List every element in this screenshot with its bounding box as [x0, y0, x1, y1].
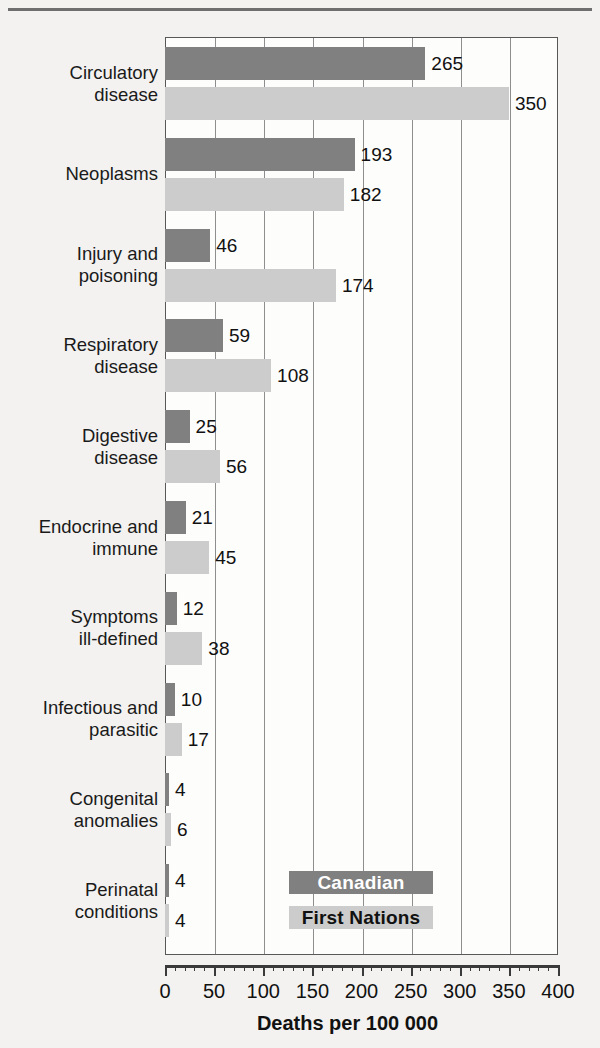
bar-value-label-firstnations-6: 38 [208, 632, 229, 665]
bar-chart-figure: 2653501931824617459108255621451238101746… [0, 0, 600, 1048]
category-label-5: Endocrine and immune [3, 516, 158, 560]
category-label-6: Symptoms ill-defined [3, 606, 158, 650]
x-tick-minor-170 [332, 965, 333, 971]
x-tick-label-300: 300 [443, 980, 476, 1003]
legend-item-canadian[interactable]: Canadian [289, 871, 433, 894]
bar-firstnations-7 [165, 723, 182, 756]
x-tick-minor-70 [234, 965, 235, 971]
x-tick-minor-60 [224, 965, 225, 971]
x-tick-minor-30 [194, 965, 195, 971]
bar-firstnations-3 [165, 359, 271, 392]
bar-value-label-canadian-5: 21 [192, 501, 213, 534]
x-tick-major-100 [263, 965, 265, 976]
category-label-2: Injury and poisoning [3, 243, 158, 287]
x-tick-minor-180 [342, 965, 343, 971]
bar-canadian-4 [165, 410, 190, 443]
x-tick-minor-230 [391, 965, 392, 971]
x-tick-minor-340 [499, 965, 500, 971]
bar-firstnations-2 [165, 269, 336, 302]
bar-value-label-canadian-3: 59 [229, 319, 250, 352]
x-tick-minor-220 [381, 965, 382, 971]
x-tick-label-250: 250 [394, 980, 427, 1003]
bar-canadian-8 [165, 773, 169, 806]
category-label-9: Perinatal conditions [3, 879, 158, 923]
x-tick-label-0: 0 [159, 980, 170, 1003]
top-divider-rule [8, 8, 592, 11]
x-tick-minor-190 [352, 965, 353, 971]
bar-value-label-canadian-0: 265 [431, 47, 463, 80]
bar-firstnations-6 [165, 632, 202, 665]
x-tick-minor-320 [479, 965, 480, 971]
x-tick-major-50 [214, 965, 216, 976]
x-tick-major-300 [460, 965, 462, 976]
x-tick-minor-270 [430, 965, 431, 971]
bar-canadian-3 [165, 319, 223, 352]
x-tick-minor-290 [450, 965, 451, 971]
bar-value-label-firstnations-1: 182 [350, 178, 382, 211]
legend-item-first-nations[interactable]: First Nations [289, 906, 433, 929]
x-tick-minor-370 [529, 965, 530, 971]
x-tick-label-350: 350 [492, 980, 525, 1003]
bar-value-label-firstnations-2: 174 [342, 269, 374, 302]
bar-firstnations-5 [165, 541, 209, 574]
x-tick-major-200 [362, 965, 364, 976]
bar-value-label-canadian-6: 12 [183, 592, 204, 625]
x-tick-minor-360 [519, 965, 520, 971]
bar-value-label-canadian-7: 10 [181, 683, 202, 716]
bar-value-label-firstnations-0: 350 [515, 87, 547, 120]
bar-value-label-firstnations-8: 6 [177, 813, 188, 846]
x-tick-label-200: 200 [345, 980, 378, 1003]
x-tick-minor-90 [253, 965, 254, 971]
x-axis-title: Deaths per 100 000 [0, 1012, 600, 1035]
x-tick-minor-310 [470, 965, 471, 971]
x-tick-minor-80 [244, 965, 245, 971]
bar-canadian-6 [165, 592, 177, 625]
bar-firstnations-0 [165, 87, 509, 120]
x-tick-minor-260 [420, 965, 421, 971]
bar-canadian-9 [165, 864, 169, 897]
x-tick-minor-130 [293, 965, 294, 971]
x-tick-minor-20 [185, 965, 186, 971]
x-tick-label-400: 400 [541, 980, 574, 1003]
category-label-1: Neoplasms [3, 163, 158, 185]
bar-value-label-firstnations-7: 17 [188, 723, 209, 756]
x-tick-minor-380 [538, 965, 539, 971]
bar-canadian-1 [165, 138, 355, 171]
bar-value-label-firstnations-9: 4 [175, 904, 186, 937]
x-tick-minor-10 [175, 965, 176, 971]
x-tick-minor-120 [283, 965, 284, 971]
bar-canadian-2 [165, 229, 210, 262]
bar-value-label-canadian-4: 25 [196, 410, 217, 443]
x-tick-label-100: 100 [247, 980, 280, 1003]
bar-value-label-firstnations-4: 56 [226, 450, 247, 483]
x-tick-minor-210 [371, 965, 372, 971]
bars-layer: 2653501931824617459108255621451238101746… [165, 37, 558, 955]
x-tick-minor-240 [401, 965, 402, 971]
x-tick-minor-390 [548, 965, 549, 971]
bar-canadian-0 [165, 47, 425, 80]
category-axis-labels: Circulatory diseaseNeoplasmsInjury and p… [0, 37, 158, 955]
bar-value-label-firstnations-3: 108 [277, 359, 309, 392]
bar-firstnations-9 [165, 904, 169, 937]
x-tick-minor-280 [440, 965, 441, 971]
x-tick-label-50: 50 [203, 980, 225, 1003]
x-tick-major-400 [558, 965, 560, 976]
bar-firstnations-4 [165, 450, 220, 483]
category-label-4: Digestive disease [3, 425, 158, 469]
bar-canadian-7 [165, 683, 175, 716]
bar-firstnations-1 [165, 178, 344, 211]
bar-canadian-5 [165, 501, 186, 534]
x-tick-label-150: 150 [296, 980, 329, 1003]
bar-value-label-canadian-8: 4 [175, 773, 186, 806]
x-tick-major-0 [165, 965, 167, 976]
bar-firstnations-8 [165, 813, 171, 846]
x-tick-minor-110 [273, 965, 274, 971]
x-tick-minor-40 [204, 965, 205, 971]
x-tick-minor-160 [322, 965, 323, 971]
category-label-7: Infectious and parasitic [3, 697, 158, 741]
bar-value-label-canadian-2: 46 [216, 229, 237, 262]
category-label-3: Respiratory disease [3, 334, 158, 378]
x-tick-major-150 [312, 965, 314, 976]
bar-value-label-firstnations-5: 45 [215, 541, 236, 574]
x-tick-major-250 [411, 965, 413, 976]
